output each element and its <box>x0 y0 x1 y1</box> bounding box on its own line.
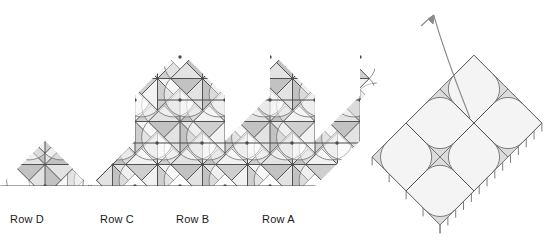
strip-cells <box>372 55 542 225</box>
tessellation-band <box>0 15 424 228</box>
row-label-b: Row B <box>176 213 209 225</box>
tessellation-tiles <box>0 15 424 228</box>
row-label-c: Row C <box>100 213 134 225</box>
tessellation-figure <box>0 0 552 248</box>
row-label-d: Row D <box>10 213 44 225</box>
arrowhead-icon <box>428 15 434 24</box>
folded-strip-module <box>368 55 546 233</box>
row-label-a: Row A <box>262 213 295 225</box>
